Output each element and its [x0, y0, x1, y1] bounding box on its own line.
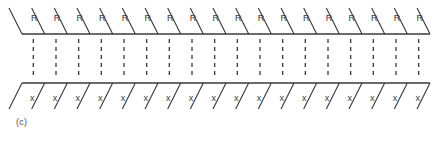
bottom-cell-label: x: [302, 93, 307, 103]
top-cell-label: R: [99, 13, 106, 23]
figure-caption: (c): [16, 117, 27, 127]
bottom-cell-label: x: [211, 93, 216, 103]
top-cell-label: R: [167, 13, 174, 23]
top-cell-label: R: [122, 13, 129, 23]
bottom-diagonal-group: [9, 83, 430, 109]
bottom-cell-label: x: [347, 93, 352, 103]
bottom-diagonal-tick: [9, 83, 22, 109]
top-cell-label: R: [348, 13, 355, 23]
top-label-group: RRRRRRRRRRRRRRRRRR: [31, 13, 423, 23]
top-cell-label: R: [416, 13, 423, 23]
bottom-cell-label: x: [325, 93, 330, 103]
top-diagonal-tick: [9, 8, 22, 34]
bottom-cell-label: x: [189, 93, 194, 103]
top-cell-label: R: [190, 13, 197, 23]
bottom-cell-label: x: [257, 93, 262, 103]
top-cell-label: R: [235, 13, 242, 23]
bottom-cell-label: x: [415, 93, 420, 103]
bottom-cell-label: x: [234, 93, 239, 103]
figure-diagram: RRRRRRRRRRRRRRRRRR xxxxxxxxxxxxxxxxxx: [0, 0, 444, 144]
dashed-vertical-group: [33, 39, 418, 78]
top-cell-label: R: [76, 13, 83, 23]
diagram-canvas: RRRRRRRRRRRRRRRRRR xxxxxxxxxxxxxxxxxx: [0, 0, 444, 144]
bottom-cell-label: x: [166, 93, 171, 103]
top-cell-label: R: [326, 13, 333, 23]
top-cell-label: R: [144, 13, 151, 23]
bottom-cell-label: x: [393, 93, 398, 103]
bottom-cell-label: x: [53, 93, 58, 103]
bottom-cell-label: x: [279, 93, 284, 103]
top-cell-label: R: [31, 13, 38, 23]
bottom-cell-label: x: [75, 93, 80, 103]
top-cell-label: R: [371, 13, 378, 23]
bottom-cell-label: x: [121, 93, 126, 103]
top-cell-label: R: [303, 13, 310, 23]
bottom-cell-label: x: [98, 93, 103, 103]
bottom-cell-label: x: [30, 93, 35, 103]
top-cell-label: R: [258, 13, 265, 23]
top-cell-label: R: [212, 13, 219, 23]
bottom-cell-label: x: [370, 93, 375, 103]
top-diagonal-group: [9, 8, 430, 34]
top-cell-label: R: [280, 13, 287, 23]
top-cell-label: R: [394, 13, 401, 23]
top-cell-label: R: [54, 13, 61, 23]
bottom-cell-label: x: [143, 93, 148, 103]
bottom-label-group: xxxxxxxxxxxxxxxxxx: [30, 93, 420, 103]
